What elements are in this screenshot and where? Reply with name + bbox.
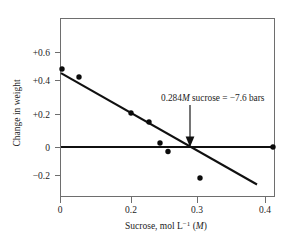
data-point	[165, 149, 170, 154]
data-point	[197, 175, 202, 180]
y-axis-title: Change in weight	[12, 79, 22, 146]
x-tick-label-0: 0	[58, 205, 63, 215]
y-axis-ticks	[55, 53, 61, 176]
data-point	[157, 140, 162, 145]
plot-frame	[61, 19, 275, 197]
x-axis-title-prefix: Sucrose, mol L	[125, 221, 183, 231]
annotation-label: 0.284M sucrose = −7.6 bars	[161, 93, 265, 103]
chart-svg: 0 0.2 0.3 0.4 Sucrose, mol L−1 (M) +0.6 …	[0, 0, 306, 245]
y-tick-label-1: +0.4	[33, 76, 50, 86]
y-tick-label-2: +0.2	[33, 110, 50, 120]
y-axis-tick-labels: +0.6 +0.4 +0.2 0 −0.2	[33, 48, 50, 181]
figure-container: 0 0.2 0.3 0.4 Sucrose, mol L−1 (M) +0.6 …	[0, 0, 306, 245]
x-axis-tick-labels: 0 0.2 0.3 0.4	[58, 205, 272, 215]
data-point	[128, 110, 133, 115]
y-tick-label-0: +0.6	[33, 48, 50, 58]
data-point	[146, 119, 151, 124]
x-tick-label-3: 0.4	[259, 205, 271, 215]
annotation-arrow	[186, 105, 195, 147]
x-axis-title: Sucrose, mol L−1 (M)	[125, 220, 207, 232]
y-tick-label-3: 0	[45, 143, 50, 153]
x-axis-ticks	[61, 197, 266, 203]
annotation-value: 0.284	[161, 93, 182, 103]
best-fit-line	[61, 73, 257, 184]
x-tick-label-1: 0.2	[125, 205, 137, 215]
data-point	[59, 66, 64, 71]
x-tick-label-2: 0.3	[191, 205, 203, 215]
annotation-tail: sucrose = −7.6 bars	[190, 93, 265, 103]
data-points	[59, 66, 275, 180]
data-point	[76, 74, 81, 79]
x-axis-title-close: )	[204, 221, 207, 232]
data-point	[270, 144, 275, 149]
y-tick-label-4: −0.2	[33, 171, 50, 181]
